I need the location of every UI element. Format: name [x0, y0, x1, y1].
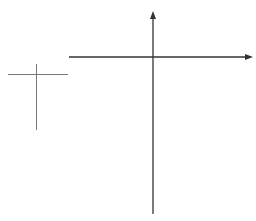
parabola-graph: [0, 0, 256, 221]
y-axis-arrow-icon: [150, 11, 156, 19]
x-axis-arrow-icon: [245, 54, 253, 60]
x-axis: [69, 54, 253, 60]
y-axis: [150, 11, 156, 214]
